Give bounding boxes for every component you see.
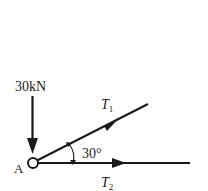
angle-arc	[66, 142, 76, 165]
t2-force-line	[38, 158, 190, 168]
load-arrow	[27, 96, 38, 154]
force-diagram: 30kN 30° A T1 T2	[0, 0, 208, 191]
angle-label: 30°	[82, 146, 102, 161]
load-label: 30kN	[15, 79, 46, 94]
pin-a	[28, 158, 38, 168]
t2-label: T2	[101, 175, 113, 191]
point-a-label: A	[14, 161, 24, 176]
t1-label: T1	[101, 97, 113, 114]
